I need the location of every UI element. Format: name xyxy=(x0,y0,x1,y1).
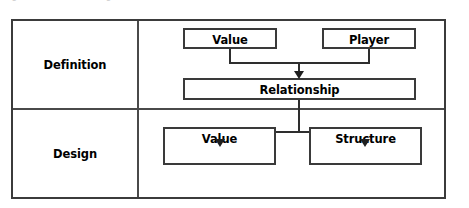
node-relationship: Relationship xyxy=(183,78,416,100)
figure-caption-text: Figure: Framework of game value and stru… xyxy=(4,0,227,1)
arrowhead-into-value-design xyxy=(215,139,225,147)
row-label-design: Design xyxy=(13,110,137,197)
node-player-definition-label: Player xyxy=(324,33,414,47)
connector-value-definition-stem xyxy=(229,49,231,62)
connector-relationship-stem xyxy=(298,100,300,131)
node-relationship-label: Relationship xyxy=(185,83,414,97)
arrowhead-into-structure-design xyxy=(360,139,370,147)
caption-strip: Figure: Framework of game value and stru… xyxy=(0,0,469,11)
framework-matrix: Definition Design Value Player Relations… xyxy=(11,19,446,199)
node-player-definition: Player xyxy=(322,28,416,49)
row-label-design-text: Design xyxy=(53,147,97,161)
connector-player-definition-stem xyxy=(368,49,370,62)
node-value-definition: Value xyxy=(183,28,277,49)
node-value-definition-label: Value xyxy=(185,33,275,47)
row-label-definition-text: Definition xyxy=(44,58,107,72)
arrowhead-into-relationship xyxy=(294,71,304,79)
row-label-definition: Definition xyxy=(13,21,137,108)
